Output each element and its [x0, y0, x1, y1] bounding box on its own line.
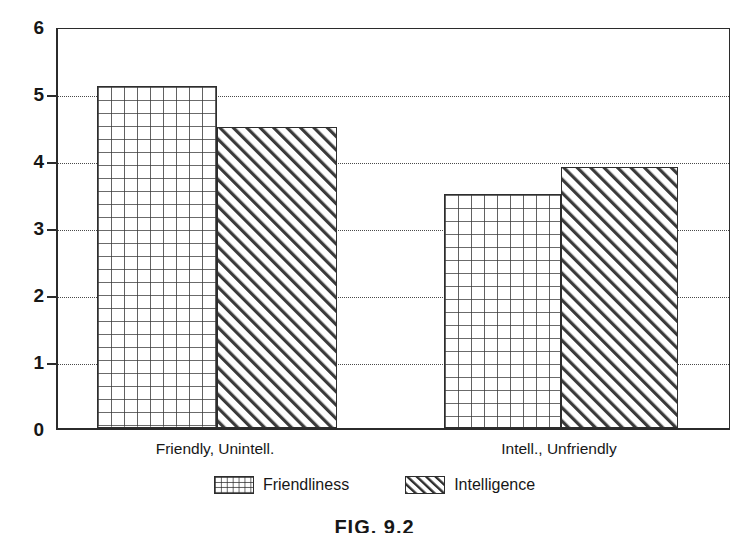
- y-axis-tick: [47, 162, 56, 164]
- x-axis-label-2: Intell., Unfriendly: [439, 440, 679, 458]
- y-axis-tick: [47, 296, 56, 298]
- legend: Friendliness Intelligence: [0, 476, 749, 494]
- y-axis-tick-label: 5: [0, 85, 44, 104]
- legend-swatch-crosshatch-icon: [214, 476, 254, 494]
- legend-entry-intelligence: Intelligence: [405, 476, 535, 494]
- y-axis-tick-label: 4: [0, 152, 44, 171]
- y-axis-tick: [47, 95, 56, 97]
- bar-friendliness-1: [97, 86, 217, 428]
- y-axis-tick: [47, 229, 56, 231]
- y-axis-tick-label: 1: [0, 353, 44, 372]
- legend-label-friendliness: Friendliness: [263, 476, 349, 494]
- y-axis-tick-label: 2: [0, 286, 44, 305]
- y-axis-tick-label: 6: [0, 18, 44, 37]
- x-axis-label-1: Friendly, Unintell.: [95, 440, 335, 458]
- bar-intelligence-1: [217, 127, 337, 429]
- legend-entry-friendliness: Friendliness: [214, 476, 349, 494]
- plot-area: [56, 28, 730, 430]
- legend-label-intelligence: Intelligence: [454, 476, 535, 494]
- figure-container: 0123456: [0, 0, 749, 533]
- y-axis-tick: [47, 363, 56, 365]
- bar-intelligence-2: [561, 167, 678, 428]
- y-axis-tick-label: 3: [0, 219, 44, 238]
- y-axis-tick-label: 0: [0, 420, 44, 439]
- legend-swatch-diagonal-icon: [405, 476, 445, 494]
- figure-caption: FIG. 9.2: [0, 516, 749, 533]
- bar-friendliness-2: [444, 194, 561, 429]
